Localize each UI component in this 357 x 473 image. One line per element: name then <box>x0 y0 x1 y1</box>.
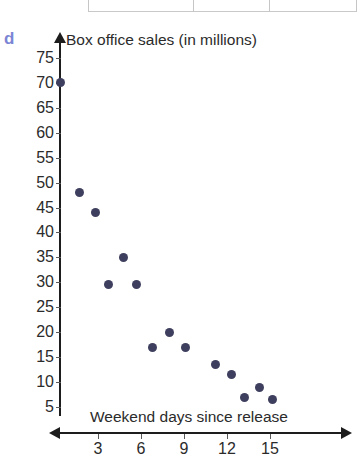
y-axis-tick-label: 45 <box>12 200 54 216</box>
scatter-point <box>132 280 141 289</box>
y-axis-tick-mark <box>56 307 61 308</box>
y-axis-title: Box office sales (in millions) <box>66 32 257 48</box>
y-axis-tick-mark <box>56 407 61 408</box>
y-axis-tick-mark <box>56 158 61 159</box>
y-axis-tick-label: 40 <box>12 224 54 240</box>
y-axis-tick-mark <box>56 257 61 258</box>
x-axis-tick-label: 6 <box>126 441 156 457</box>
scatter-point <box>268 395 277 404</box>
y-axis-line <box>59 42 61 416</box>
y-axis-tick-label: 5 <box>12 399 54 415</box>
x-axis-line <box>60 432 343 434</box>
scatter-point <box>75 188 84 197</box>
y-axis-tick-mark <box>56 208 61 209</box>
x-axis-title: Weekend days since release <box>90 409 288 425</box>
x-axis-arrowhead-left-icon <box>49 427 60 439</box>
scatter-point <box>104 280 113 289</box>
scatter-plot: Box office sales (in millions) Weekend d… <box>0 0 357 473</box>
y-axis-tick-mark <box>56 382 61 383</box>
y-axis-tick-label: 15 <box>12 349 54 365</box>
x-axis-tick-mark <box>270 434 271 439</box>
scatter-point <box>56 78 65 87</box>
x-axis-tick-label: 3 <box>83 441 113 457</box>
x-axis-tick-mark <box>141 434 142 439</box>
y-axis-tick-label: 20 <box>12 324 54 340</box>
x-axis-tick-label: 15 <box>255 441 285 457</box>
x-axis-tick-mark <box>98 434 99 439</box>
y-axis-tick-mark <box>56 232 61 233</box>
y-axis-tick-label: 55 <box>12 150 54 166</box>
x-axis-tick-mark <box>227 434 228 439</box>
scatter-point <box>227 370 236 379</box>
y-axis-tick-mark <box>56 332 61 333</box>
y-axis-arrowhead-icon <box>54 32 66 43</box>
scatter-point <box>119 253 128 262</box>
scatter-point <box>211 360 220 369</box>
scatter-point <box>91 208 100 217</box>
y-axis-tick-label: 25 <box>12 299 54 315</box>
scatter-point <box>165 328 174 337</box>
y-axis-tick-label: 75 <box>12 50 54 66</box>
y-axis-tick-mark <box>56 58 61 59</box>
x-axis-tick-label: 12 <box>212 441 242 457</box>
y-axis-tick-mark <box>56 133 61 134</box>
y-axis-tick-mark <box>56 282 61 283</box>
y-axis-tick-mark <box>56 357 61 358</box>
scatter-point <box>148 343 157 352</box>
y-axis-tick-label: 60 <box>12 125 54 141</box>
x-axis-tick-label: 9 <box>169 441 199 457</box>
y-axis-tick-mark <box>56 108 61 109</box>
y-axis-tick-label: 50 <box>12 175 54 191</box>
y-axis-tick-label: 35 <box>12 249 54 265</box>
y-axis-tick-label: 70 <box>12 75 54 91</box>
y-axis-tick-label: 30 <box>12 274 54 290</box>
x-axis-tick-mark <box>184 434 185 439</box>
scatter-point <box>240 393 249 402</box>
y-axis-tick-label: 65 <box>12 100 54 116</box>
x-axis-arrowhead-icon <box>341 427 352 439</box>
scatter-point <box>255 383 264 392</box>
scatter-point <box>181 343 190 352</box>
y-axis-tick-label: 10 <box>12 374 54 390</box>
y-axis-tick-mark <box>56 183 61 184</box>
